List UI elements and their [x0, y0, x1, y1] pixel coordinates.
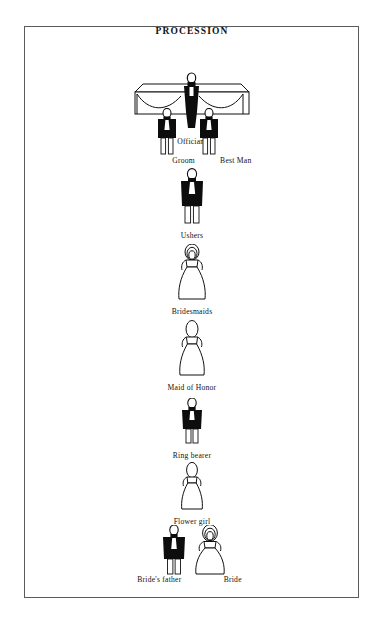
label-ring-bearer: Ring bearer	[173, 451, 211, 460]
ushers-label-group: Ushers	[0, 224, 384, 242]
label-bride: Bride	[224, 575, 242, 584]
bridesmaids-illustration	[165, 244, 219, 300]
bride-figure	[196, 525, 224, 574]
label-best-man: Best Man	[220, 156, 251, 165]
label-brides-father: Bride's father	[137, 575, 181, 584]
groom-figure	[158, 108, 176, 154]
label-bridesmaids: Bridesmaids	[172, 307, 213, 316]
flower-girl-illustration	[168, 462, 216, 510]
row-ushers: Ushers	[0, 168, 384, 242]
brides-father-figure	[163, 525, 185, 574]
row-maid-of-honor: Maid of Honor	[0, 320, 384, 394]
ring-bearer-illustration	[172, 398, 212, 444]
ushers-illustration	[172, 168, 212, 224]
father-bride-illustration	[144, 525, 240, 575]
row-father-bride: Bride's father Bride	[0, 525, 384, 587]
row-flower-girl: Flower girl	[0, 462, 384, 528]
row-groom-bestman: Groom Best Man	[0, 108, 384, 168]
label-maid-of-honor: Maid of Honor	[168, 383, 217, 392]
row-bridesmaids: Bridesmaids	[0, 244, 384, 318]
usher-figure	[181, 169, 203, 223]
maid-of-honor-illustration	[165, 320, 219, 376]
row-ring-bearer: Ring bearer	[0, 398, 384, 462]
ring-bearer-figure	[182, 398, 202, 443]
bridesmaids-label-group: Bridesmaids	[0, 300, 384, 318]
groom-bestman-label-group: Groom Best Man	[0, 156, 384, 168]
label-ushers: Ushers	[181, 231, 204, 240]
best-man-figure	[200, 108, 218, 154]
bridesmaid-figure	[179, 244, 205, 299]
groom-bestman-illustration	[147, 108, 237, 156]
father-bride-label-group: Bride's father Bride	[0, 575, 384, 587]
maid-of-honor-figure	[180, 321, 204, 376]
maid-of-honor-label-group: Maid of Honor	[0, 376, 384, 394]
flower-girl-figure	[182, 462, 203, 509]
label-groom: Groom	[172, 156, 195, 165]
ring-bearer-label-group: Ring bearer	[0, 444, 384, 462]
page-title: PROCESSION	[0, 26, 384, 36]
